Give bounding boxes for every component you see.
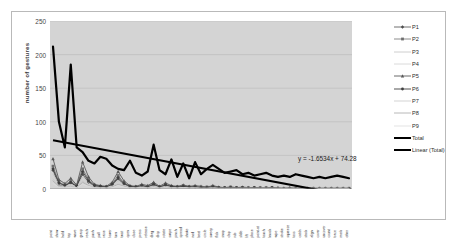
x-tick-label: stack — [305, 230, 309, 231]
legend-item-p4[interactable]: P4 — [394, 58, 446, 70]
x-tick-label: trace — [335, 230, 339, 231]
chart-figure: number of gestures 050100150200250 y = -… — [11, 11, 446, 220]
x-tick-label: rotate — [163, 229, 167, 231]
data-point-marker — [117, 176, 120, 179]
legend-item-p5[interactable]: P5 — [394, 70, 446, 82]
legend-swatch-icon — [394, 35, 411, 44]
x-tick-label: count — [329, 230, 333, 231]
data-point-marker — [87, 180, 90, 183]
x-tick-label: grasp — [80, 230, 84, 231]
data-point-marker — [401, 25, 404, 28]
legend-label: Total — [412, 135, 424, 141]
x-tick-label: show — [57, 230, 61, 231]
x-axis-ticks: pointshowholdtapwavegraspreachpushpullra… — [50, 190, 352, 231]
legend-label: P4 — [412, 61, 419, 67]
x-tick-label: cover — [317, 230, 321, 231]
legend-swatch-icon — [394, 72, 411, 81]
legend-item-p2[interactable]: P2 — [394, 33, 446, 45]
y-tick-label: 50 — [26, 152, 46, 159]
legend-label: P7 — [412, 98, 419, 104]
data-point-marker — [81, 167, 84, 170]
y-tick-label: 150 — [26, 85, 46, 92]
data-point-marker — [52, 167, 55, 170]
data-point-marker — [93, 184, 96, 187]
legend-swatch-icon — [394, 146, 411, 155]
legend-label: P3 — [412, 49, 419, 55]
legend-item-p6[interactable]: P6 — [394, 82, 446, 94]
x-tick-label: pinch — [175, 230, 179, 231]
legend-label: P8 — [412, 110, 419, 116]
legend-label: P1 — [412, 24, 419, 30]
data-point-marker — [69, 176, 72, 179]
x-tick-label: mark — [341, 230, 345, 231]
legend-swatch-icon — [394, 84, 411, 93]
data-point-marker — [111, 183, 114, 186]
x-tick-label: reach — [86, 230, 90, 231]
trendline-equation-label: y = -1.6534x + 74.28 — [298, 155, 357, 162]
x-tick-label: knock — [270, 229, 274, 231]
data-point-marker — [164, 184, 167, 187]
legend-item-p3[interactable]: P3 — [394, 46, 446, 58]
legend-swatch-icon — [394, 109, 411, 118]
data-point-marker — [69, 181, 72, 184]
chart-legend: P1P2P3P4P5P6P7P8P9TotalLinear (Total) — [394, 21, 446, 161]
y-tick-label: 0 — [26, 186, 46, 193]
data-point-marker — [81, 160, 84, 163]
x-tick-label: lower — [110, 230, 114, 231]
legend-label: P2 — [412, 36, 419, 42]
x-tick-label: touch — [264, 230, 268, 231]
y-tick-label: 250 — [26, 18, 46, 25]
legend-item-p1[interactable]: P1 — [394, 21, 446, 33]
x-tick-label: squeeze — [287, 225, 291, 231]
x-tick-label: circle — [205, 230, 209, 231]
legend-swatch-icon — [394, 60, 411, 69]
data-point-marker — [401, 38, 404, 41]
x-tick-label: open — [128, 230, 132, 231]
x-tick-label: point-at — [258, 227, 262, 231]
x-tick-label: swipe — [169, 229, 173, 231]
y-tick-label: 200 — [26, 51, 46, 58]
legend-swatch-icon — [394, 133, 411, 142]
series-canvas — [50, 21, 352, 189]
legend-swatch-icon — [394, 23, 411, 32]
legend-label: P9 — [412, 123, 419, 129]
legend-swatch-icon — [394, 96, 411, 105]
data-point-marker — [52, 165, 55, 168]
legend-label: P5 — [412, 73, 419, 79]
x-tick-label: sweep — [210, 228, 214, 231]
x-tick-label: spread — [181, 228, 185, 231]
x-tick-label: catch — [299, 230, 303, 231]
x-tick-label: press — [139, 230, 143, 231]
legend-item-total[interactable]: Total — [394, 132, 446, 144]
y-axis-ticks: 050100150200250 — [24, 21, 46, 189]
legend-item-linear-total[interactable]: Linear (Total) — [394, 144, 446, 156]
data-point-marker — [401, 87, 404, 90]
legend-label: P6 — [412, 86, 419, 92]
y-tick-label: 100 — [26, 118, 46, 125]
x-tick-label: stroke — [281, 229, 285, 231]
legend-swatch-icon — [394, 47, 411, 56]
x-tick-label: other — [347, 230, 351, 231]
legend-item-p8[interactable]: P8 — [394, 107, 446, 119]
x-tick-label: wave — [74, 230, 78, 231]
legend-swatch-icon — [394, 121, 411, 130]
trendline — [53, 140, 349, 189]
legend-label: Linear (Total) — [412, 147, 445, 153]
x-tick-label: release — [145, 227, 149, 231]
plot-area — [50, 21, 352, 189]
data-point-marker — [58, 182, 61, 185]
legend-item-p7[interactable]: P7 — [394, 95, 446, 107]
x-tick-label: close — [133, 230, 137, 231]
x-tick-label: place — [252, 230, 256, 231]
data-point-marker — [81, 170, 84, 173]
data-point-marker — [152, 183, 155, 186]
x-tick-label: shake — [187, 229, 191, 231]
legend-item-p9[interactable]: P9 — [394, 119, 446, 131]
x-tick-label: uncover — [323, 226, 327, 231]
data-point-marker — [51, 157, 54, 160]
data-point-marker — [123, 182, 126, 185]
